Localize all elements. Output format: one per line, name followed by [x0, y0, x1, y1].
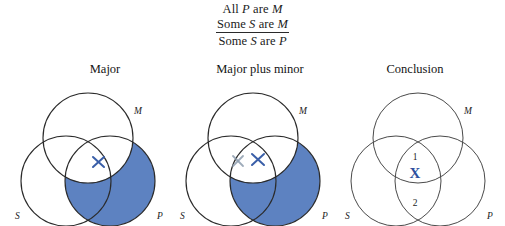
venn-diagram-major-plus-minor: M S P — [170, 88, 340, 226]
shaded-region-p-not-m — [5, 88, 175, 226]
circle-s — [351, 136, 441, 226]
syllogism-premise-major: All P are M — [0, 2, 505, 17]
venn-diagram-major: M S P — [5, 88, 175, 226]
region-number-2: 2 — [413, 198, 418, 208]
premise1-subject: P — [242, 2, 250, 16]
x-mark-bold: X — [410, 165, 421, 181]
venn-diagram-conclusion: 1 2 X M S P — [335, 88, 505, 226]
premise1-predicate: M — [272, 2, 283, 16]
label-p: P — [156, 211, 163, 221]
label-s: S — [15, 211, 20, 221]
conclusion-subject: S — [250, 34, 256, 48]
circle-p — [395, 136, 485, 226]
label-m: M — [298, 106, 308, 116]
premise2-predicate: M — [277, 17, 288, 31]
syllogism-block: All P are M Some S are M Some S are P — [0, 2, 505, 49]
label-p: P — [321, 211, 328, 221]
region-number-1: 1 — [413, 152, 418, 162]
conclusion-predicate: P — [279, 34, 287, 48]
syllogism-conclusion: Some S are P — [0, 34, 505, 49]
label-s: S — [180, 211, 185, 221]
label-s: S — [345, 211, 350, 221]
premise2-subject: S — [249, 17, 255, 31]
label-m: M — [133, 106, 143, 116]
caption-conclusion: Conclusion — [350, 62, 480, 77]
label-p: P — [486, 211, 493, 221]
conclusion-copula: are — [260, 34, 276, 48]
label-m: M — [463, 106, 473, 116]
conclusion-quantifier: Some — [218, 34, 247, 48]
premise2-quantifier: Some — [217, 17, 246, 31]
premise1-copula: are — [253, 2, 269, 16]
premise2-copula: are — [259, 17, 275, 31]
figure-canvas: All P are M Some S are M Some S are P Ma… — [0, 0, 505, 226]
caption-major: Major — [45, 62, 165, 77]
caption-major-plus-minor: Major plus minor — [180, 62, 340, 77]
syllogism-premise-minor: Some S are M — [0, 17, 505, 33]
premise1-quantifier: All — [223, 2, 239, 16]
